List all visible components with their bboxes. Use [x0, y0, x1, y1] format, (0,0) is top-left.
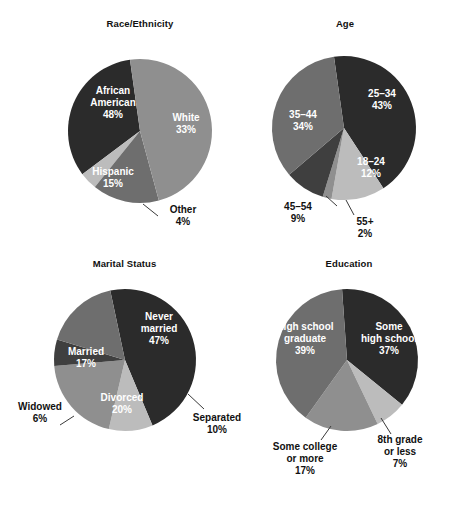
slice-label-widowed-line1: Widowed [18, 401, 62, 412]
slice-label-some-college-line2: or more [286, 453, 324, 464]
slice-label-white-value: 33% [176, 124, 196, 135]
slice-label-never-married-line2: married [141, 323, 178, 334]
slice-label-age-35-44-value: 34% [293, 121, 313, 132]
slice-label-never-married-value: 47% [149, 335, 169, 346]
slice-label-african-american-line1: African [96, 85, 130, 96]
slice-label-age-18-24-line1: 18–24 [357, 156, 385, 167]
slice-label-8th-grade-line1: 8th grade [377, 434, 422, 445]
slice-label-african-american-value: 48% [103, 109, 123, 120]
panel-title-education: Education [243, 258, 455, 269]
panel-title-age: Age [240, 18, 450, 29]
leader-line-separated [188, 394, 204, 409]
slice-label-hispanic-value: 15% [103, 178, 123, 189]
slice-label-high-school-graduate-value: 39% [295, 345, 315, 356]
slice-label-white-line1: White [172, 112, 200, 123]
pie-marital-status: Never married 47% Married 17% Divorced 2… [12, 258, 237, 448]
slice-label-separated-line1: Separated [193, 412, 241, 423]
slice-label-8th-grade-value: 7% [393, 458, 408, 469]
panel-title-marital-status: Marital Status [12, 258, 237, 269]
leader-line-age-55-plus [346, 200, 354, 215]
leader-line-other [143, 204, 158, 216]
leader-line-8th-grade-or-less [381, 418, 391, 434]
slice-label-widowed-value: 6% [33, 413, 48, 424]
panel-age: Age 25–34 43% 35–44 34% 18–24 12% 45–54 … [240, 18, 450, 243]
panel-title-race-ethnicity: Race/Ethnicity [40, 18, 240, 29]
pie-chart-figure: Race/Ethnicity African American 48% Whit… [0, 0, 455, 517]
panel-race-ethnicity: Race/Ethnicity African American 48% Whit… [40, 18, 240, 233]
slice-label-married-value: 17% [76, 358, 96, 369]
slice-label-age-55-plus-line1: 55+ [357, 216, 374, 227]
slice-label-age-35-44-line1: 35–44 [289, 109, 317, 120]
slice-label-some-high-school-value: 37% [379, 345, 399, 356]
slice-label-age-25-34-value: 43% [372, 100, 392, 111]
slice-label-hispanic-line1: Hispanic [92, 166, 134, 177]
pie-age: 25–34 43% 35–44 34% 18–24 12% 45–54 9% 5… [240, 18, 450, 243]
slice-label-african-american-line2: American [90, 97, 136, 108]
leader-line-some-college-or-more [321, 426, 331, 440]
slice-label-age-55-plus-value: 2% [358, 228, 373, 239]
pie-race-ethnicity: African American 48% White 33% Hispanic … [40, 18, 240, 233]
slice-label-other-value: 4% [176, 216, 191, 227]
panel-education: Education High school graduate 39% Some … [243, 258, 455, 468]
leader-line-widowed [60, 416, 74, 425]
slice-label-some-college-value: 17% [295, 465, 315, 476]
slice-label-some-high-school-line1: Some [375, 321, 403, 332]
slice-label-never-married-line1: Never [145, 311, 173, 322]
slice-label-8th-grade-line2: or less [384, 446, 417, 457]
slice-label-married-line1: Married [68, 346, 104, 357]
slice-label-age-45-54-line1: 45–54 [284, 201, 312, 212]
slice-label-age-25-34-line1: 25–34 [368, 88, 396, 99]
panel-marital-status: Marital Status Never married 47% Married… [12, 258, 237, 448]
slice-label-other-line1: Other [170, 204, 197, 215]
slice-label-some-high-school-line2: high school [361, 333, 417, 344]
slice-label-high-school-graduate-line2: graduate [284, 333, 327, 344]
pie-education: High school graduate 39% Some high schoo… [243, 258, 455, 468]
slice-label-age-45-54-value: 9% [291, 213, 306, 224]
slice-label-some-college-line1: Some college [273, 441, 338, 452]
slice-label-divorced-line1: Divorced [101, 392, 144, 403]
slice-label-divorced-value: 20% [112, 404, 132, 415]
slice-label-high-school-graduate-line1: High school [276, 321, 333, 332]
slice-label-age-18-24-value: 12% [361, 168, 381, 179]
slice-label-separated-value: 10% [207, 424, 227, 435]
